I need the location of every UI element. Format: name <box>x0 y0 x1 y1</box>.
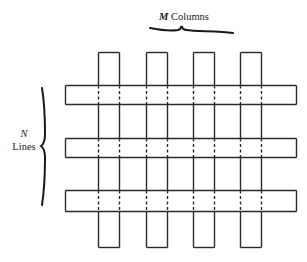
grid-drawing <box>0 0 307 262</box>
columns-variable: M <box>159 11 168 22</box>
columns-group <box>99 53 262 248</box>
columns-label: M Columns <box>159 12 209 23</box>
lines-variable: N <box>8 127 40 140</box>
columns-brace-icon <box>150 26 233 33</box>
columns-label-text: Columns <box>168 11 209 22</box>
lines-label: N Lines <box>8 127 40 153</box>
lines-label-text: Lines <box>8 140 40 153</box>
lines-brace-icon <box>41 88 45 205</box>
